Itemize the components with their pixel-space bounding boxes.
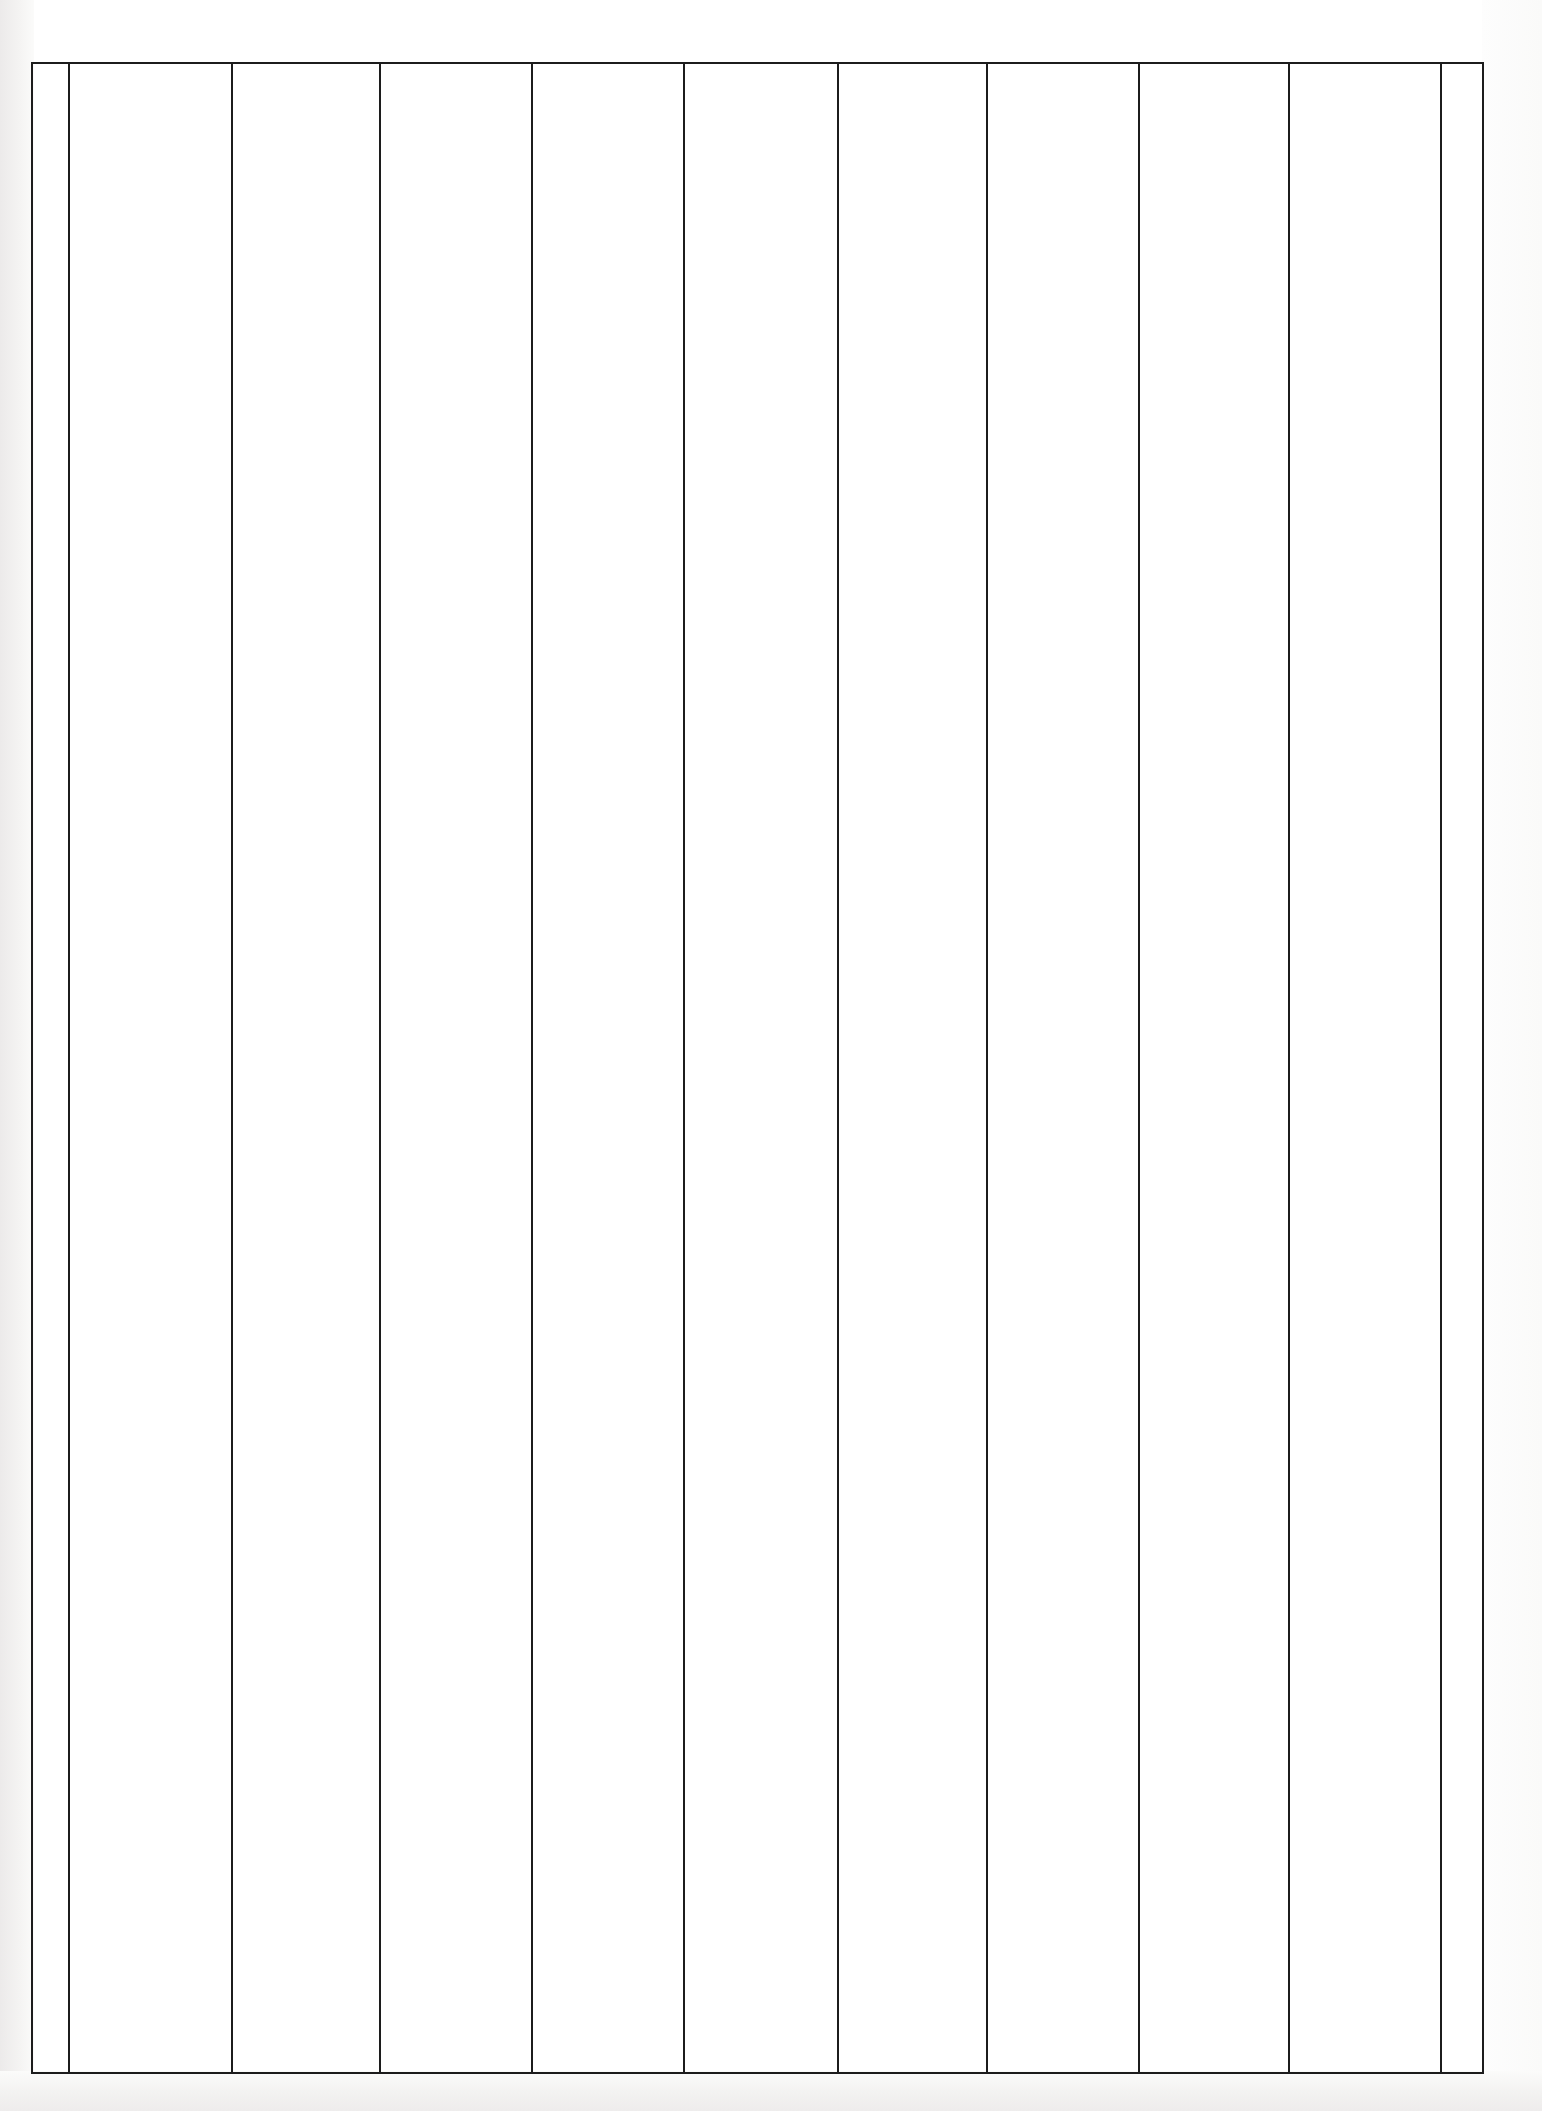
table-column-4-text [381, 64, 531, 70]
table-column-7 [839, 64, 986, 2072]
table-column-8-text [988, 64, 1138, 70]
table-column-3-text [233, 64, 379, 70]
table-column-6 [685, 64, 837, 2072]
table-column-5-text [533, 64, 683, 70]
table-column-5 [533, 64, 683, 2072]
table-column-11-text [1442, 64, 1482, 70]
table-column-9 [1140, 64, 1288, 2072]
table-column-3 [233, 64, 379, 2072]
table-column-2 [70, 64, 231, 2072]
table-column-6-text [685, 64, 837, 70]
table-right-border [1482, 62, 1484, 2074]
table-column-10 [1290, 64, 1440, 2072]
table-column-9-text [1140, 64, 1288, 70]
table-column-2-text [70, 64, 231, 70]
scanned-page [0, 0, 1542, 2111]
table-column-11 [1442, 64, 1482, 2072]
ruled-table [0, 0, 1542, 2111]
table-column-7-text [839, 64, 986, 70]
table-column-10-text [1290, 64, 1440, 70]
table-column-8 [988, 64, 1138, 2072]
table-column-1-text [33, 64, 68, 70]
table-column-1 [33, 64, 68, 2072]
table-bottom-border [31, 2072, 1484, 2074]
table-column-4 [381, 64, 531, 2072]
